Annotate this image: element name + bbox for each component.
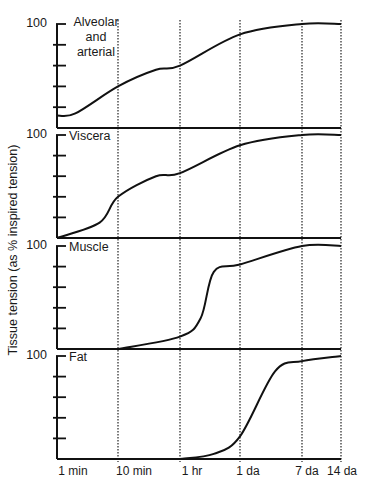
panel-title-line: arterial <box>66 45 126 60</box>
panel-title-muscle: Muscle <box>69 240 109 255</box>
vertical-gridlines <box>118 20 341 462</box>
y-top-label-alveolar: 100 <box>17 16 47 30</box>
x-tick-7da: 7 da <box>295 464 318 478</box>
x-tick-10min: 10 min <box>116 464 152 478</box>
curve-fat <box>180 356 341 459</box>
tissue-tension-chart: Tissue tension (as % inspired tension) 1… <box>0 0 369 489</box>
curve-muscle <box>118 245 341 349</box>
x-tick-1da: 1 da <box>236 464 259 478</box>
panel-title-fat: Fat <box>69 350 87 365</box>
y-top-label-fat: 100 <box>17 348 47 362</box>
y-top-label-muscle: 100 <box>17 238 47 252</box>
chart-svg <box>0 0 369 489</box>
curve-viscera <box>57 134 341 238</box>
panel-title-line: Alveolar <box>66 15 126 30</box>
panel-title-alveolar: Alveolar and arterial <box>66 15 126 60</box>
panel-title-line: and <box>66 30 126 45</box>
x-tick-14da: 14 da <box>327 464 357 478</box>
panel-title-viscera: Viscera <box>69 129 110 144</box>
y-top-label-viscera: 100 <box>17 127 47 141</box>
x-tick-1min: 1 min <box>58 464 87 478</box>
x-tick-1hr: 1 hr <box>182 464 203 478</box>
